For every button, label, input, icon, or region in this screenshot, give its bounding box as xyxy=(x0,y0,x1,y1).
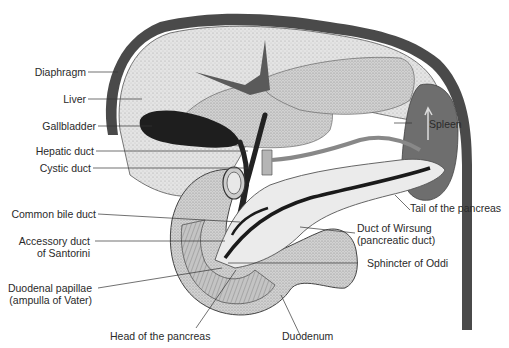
label-diaphragm: Diaphragm xyxy=(20,66,86,78)
label-hepatic-duct: Hepatic duct xyxy=(20,145,94,157)
label-spleen: Spleen xyxy=(429,118,462,130)
label-accessory-duct: Accessory duct of Santorini xyxy=(0,235,90,259)
label-duodenal-papillae: Duodenal papillae (ampulla of Vater) xyxy=(0,282,92,306)
label-accessory-duct-line2: of Santorini xyxy=(0,247,90,259)
label-duodenum: Duodenum xyxy=(282,330,333,342)
label-sphincter-of-oddi: Sphincter of Oddi xyxy=(367,257,448,269)
label-duodenal-papillae-line1: Duodenal papillae xyxy=(0,282,92,294)
label-head-of-pancreas: Head of the pancreas xyxy=(110,330,210,342)
label-duct-of-wirsung-line2: (pancreatic duct) xyxy=(357,234,435,246)
label-duct-of-wirsung-line1: Duct of Wirsung xyxy=(357,222,435,234)
label-duct-of-wirsung: Duct of Wirsung (pancreatic duct) xyxy=(357,222,435,246)
label-tail-of-pancreas: Tail of the pancreas xyxy=(410,202,501,214)
label-duodenal-papillae-line2: (ampulla of Vater) xyxy=(0,294,92,306)
label-liver: Liver xyxy=(20,93,86,105)
label-common-bile-duct: Common bile duct xyxy=(0,208,96,220)
label-cystic-duct: Cystic duct xyxy=(20,162,91,174)
label-accessory-duct-line1: Accessory duct xyxy=(0,235,90,247)
label-gallbladder: Gallbladder xyxy=(20,120,96,132)
